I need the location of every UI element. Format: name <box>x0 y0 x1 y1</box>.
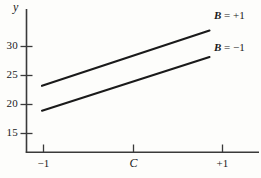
y-tick-label-20: 20 <box>0 98 18 109</box>
x-tick-label-minus1: −1 <box>30 158 57 169</box>
x-tick-label-c: C <box>120 157 147 169</box>
series-annotation-value-2: = −1 <box>221 41 244 53</box>
chart-figure: y 30 25 20 15 −1 C +1 B = +1 B = −1 <box>0 0 261 178</box>
series-annotation-b-minus-1: B = −1 <box>214 42 245 53</box>
x-tick-label-plus1: +1 <box>209 158 236 169</box>
series-line-b-minus-1 <box>42 57 210 111</box>
series-line-b-plus-1 <box>42 31 210 86</box>
y-tick-label-25: 25 <box>0 69 18 80</box>
series-annotation-value-1: = +1 <box>221 9 244 21</box>
y-axis-label: y <box>13 1 18 13</box>
y-tick-label-30: 30 <box>0 40 18 51</box>
series-annotation-b-plus-1: B = +1 <box>214 10 245 21</box>
x-axis-ticks <box>44 145 223 153</box>
y-tick-label-15: 15 <box>0 127 18 138</box>
plot-canvas <box>0 0 261 178</box>
